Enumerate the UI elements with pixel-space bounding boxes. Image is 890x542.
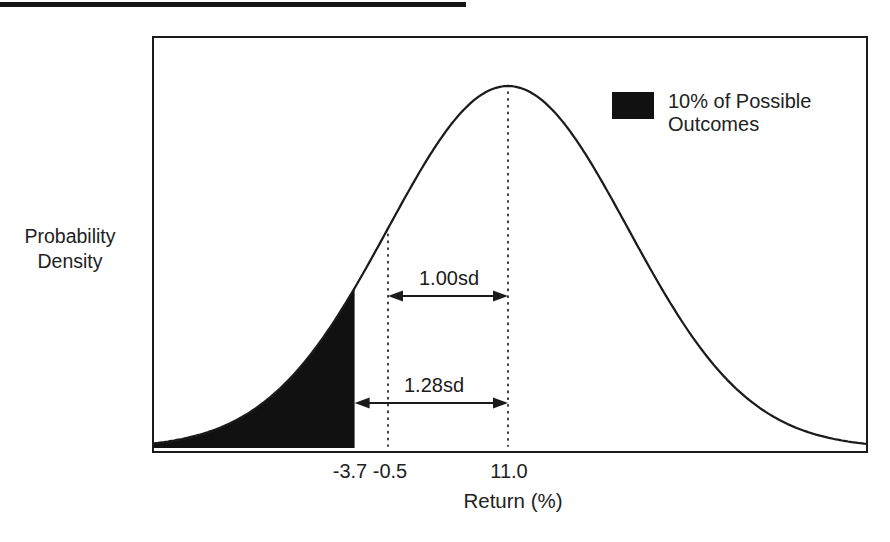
arrow-head-right-1.28sd [493, 398, 508, 409]
legend-swatch [612, 92, 654, 119]
legend-label-line2: Outcomes [668, 113, 759, 135]
arrow-head-left-1.28sd [355, 398, 370, 409]
figure-page: Probability Density 10% of Possible Outc… [0, 0, 890, 542]
arrow-head-left-1.00sd [388, 291, 403, 302]
y-axis-label: Probability Density [8, 224, 132, 274]
bell-curve [154, 86, 866, 444]
legend-label-line1: 10% of Possible [668, 90, 811, 112]
x-tick-label-neg-0-5: -0.5 [373, 460, 407, 483]
annotation-label-1-00sd: 1.00sd [419, 267, 479, 290]
shaded-tail-10pct [154, 288, 355, 448]
annotation-label-1-28sd: 1.28sd [404, 374, 464, 397]
y-axis-label-line2: Density [8, 249, 132, 274]
legend-label: 10% of Possible Outcomes [668, 90, 811, 136]
x-tick-label-neg-3-7: -3.7 [333, 460, 367, 483]
plot-frame: 10% of Possible Outcomes [152, 36, 868, 453]
y-axis-label-line1: Probability [8, 224, 132, 249]
page-top-rule [0, 2, 466, 7]
arrow-head-right-1.00sd [493, 291, 508, 302]
x-tick-label-11-0: 11.0 [490, 460, 527, 483]
x-axis-title: Return (%) [463, 489, 562, 513]
legend: 10% of Possible Outcomes [612, 90, 811, 136]
